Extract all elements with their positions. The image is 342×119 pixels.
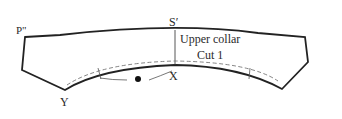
piece-name-label: Upper collar xyxy=(180,33,240,45)
notch-left xyxy=(98,68,101,79)
marker-dot xyxy=(135,76,141,82)
collar-outline xyxy=(22,28,308,90)
point-label-p-double-prime: P" xyxy=(16,24,27,36)
point-label-s-prime: S′ xyxy=(169,16,178,28)
point-label-x: X xyxy=(169,70,178,82)
cut-instruction-label: Cut 1 xyxy=(197,49,223,61)
point-label-y: Y xyxy=(60,96,69,108)
notch-right xyxy=(249,68,250,79)
guide-arc-left xyxy=(100,78,127,80)
